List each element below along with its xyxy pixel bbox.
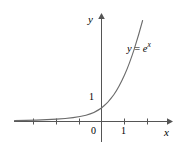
origin-label: 0 (91, 126, 96, 136)
y-axis-label: y (88, 14, 93, 25)
x-tick-label-1: 1 (121, 126, 126, 136)
curve-equation-label: y = ex (127, 41, 151, 54)
x-axis-arrowhead (167, 118, 173, 125)
x-axis-label: x (164, 127, 169, 138)
exponential-curve (15, 21, 143, 121)
y-axis-arrowhead (98, 13, 105, 19)
y-tick-label-1: 1 (89, 92, 94, 102)
curve-equation-exponent: x (148, 40, 151, 49)
curve-equation-equals: = (132, 43, 143, 54)
exponential-function-figure: y x 1 0 1 y = ex (0, 0, 176, 149)
